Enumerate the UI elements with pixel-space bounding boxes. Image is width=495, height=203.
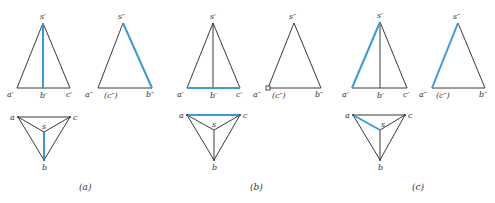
edge-sc-front xyxy=(213,23,240,88)
label-b-prime: b′ xyxy=(377,91,384,100)
label-a-prime: a′ xyxy=(7,90,14,99)
label-s-double-prime: s″ xyxy=(453,12,460,21)
caption-b: (b) xyxy=(250,182,263,192)
label-c: c xyxy=(73,113,78,122)
label-a: a xyxy=(345,111,350,120)
edge-cb-top xyxy=(214,115,240,160)
edge-sa-side-highlighted xyxy=(432,23,458,88)
label-c-double-prime: (c″) xyxy=(272,91,286,100)
top-view-c: a c s b xyxy=(345,111,413,172)
pyramid-projection-figure: s′ a′ b′ c′ s″ a″ (c″) b″ a c xyxy=(0,0,495,203)
label-c-prime: c′ xyxy=(236,90,242,99)
label-s-double-prime: s″ xyxy=(289,12,296,21)
label-a-double-prime: a″ xyxy=(85,90,93,99)
edge-ac-point-view-marker xyxy=(266,86,270,90)
label-s: s xyxy=(42,122,46,131)
label-b-prime: b′ xyxy=(40,91,47,100)
panel-b: s′ a′ b′ c′ s″ a″ (c″) b″ a c xyxy=(177,12,323,192)
label-c: c xyxy=(243,111,248,120)
label-a-double-prime: a″ xyxy=(253,90,261,99)
caption-c: (c) xyxy=(412,182,425,192)
edge-sa-side xyxy=(268,23,294,88)
front-view-a: s′ a′ b′ c′ xyxy=(7,12,72,100)
label-a: a xyxy=(10,113,15,122)
top-view-b: a c s b xyxy=(179,111,248,172)
edge-sa-front-highlighted xyxy=(352,22,380,88)
vertex-a xyxy=(186,114,188,116)
label-a-double-prime: a″ xyxy=(419,90,427,99)
label-c: c xyxy=(408,111,413,120)
edge-sb-side-highlighted xyxy=(123,23,152,88)
caption-a: (a) xyxy=(79,182,92,192)
panel-a: s′ a′ b′ c′ s″ a″ (c″) b″ a c xyxy=(7,12,154,192)
label-c-double-prime: (c″) xyxy=(436,91,450,100)
vertex-b xyxy=(213,159,215,161)
side-view-a: s″ a″ (c″) b″ xyxy=(85,12,154,100)
side-view-b: s″ a″ (c″) b″ xyxy=(253,12,323,100)
label-s-prime: s′ xyxy=(210,12,216,21)
edge-cs-top xyxy=(44,117,70,132)
label-s-prime: s′ xyxy=(40,12,46,21)
edge-sc-front xyxy=(380,22,407,88)
edge-sb-side xyxy=(294,23,321,88)
label-s-double-prime: s″ xyxy=(118,12,125,21)
vertex-c xyxy=(239,114,241,116)
label-b: b xyxy=(378,163,383,172)
vertex-b xyxy=(379,159,381,161)
label-s: s xyxy=(212,120,216,129)
edge-ab-top xyxy=(187,115,214,160)
label-b-prime: b′ xyxy=(210,91,217,100)
label-b: b xyxy=(42,163,47,172)
top-view-a: a c s b xyxy=(10,113,78,172)
edge-sa-front xyxy=(187,23,213,88)
vertex-b xyxy=(43,159,45,161)
label-s: s xyxy=(381,120,385,129)
edge-sa-side xyxy=(98,23,123,88)
label-c-prime: c′ xyxy=(66,90,72,99)
edge-sa-front xyxy=(17,23,43,88)
panel-c: s′ a′ b′ c′ s″ a″ (c″) b″ a c s xyxy=(342,11,487,192)
label-a-prime: a′ xyxy=(177,90,184,99)
vertex-a xyxy=(17,116,19,118)
label-a-prime: a′ xyxy=(342,90,349,99)
edge-cb-top xyxy=(44,117,70,160)
label-b-double-prime: b″ xyxy=(479,90,487,99)
front-view-c: s′ a′ b′ c′ xyxy=(342,11,409,100)
label-c-double-prime: (c″) xyxy=(104,91,118,100)
label-c-prime: c′ xyxy=(403,90,409,99)
vertex-c xyxy=(404,114,406,116)
vertex-a xyxy=(352,114,354,116)
label-a: a xyxy=(179,111,184,120)
edge-as-top xyxy=(18,117,44,132)
vertex-c xyxy=(69,116,71,118)
front-view-b: s′ a′ b′ c′ xyxy=(177,12,242,100)
label-b: b xyxy=(212,163,217,172)
edge-sb-side xyxy=(458,23,485,88)
label-b-double-prime: b″ xyxy=(315,90,323,99)
label-b-double-prime: b″ xyxy=(146,90,154,99)
edge-sc-front xyxy=(43,23,70,88)
label-s-prime: s′ xyxy=(377,11,383,20)
edge-ab-top xyxy=(18,117,44,160)
side-view-c: s″ a″ (c″) b″ xyxy=(419,12,487,100)
